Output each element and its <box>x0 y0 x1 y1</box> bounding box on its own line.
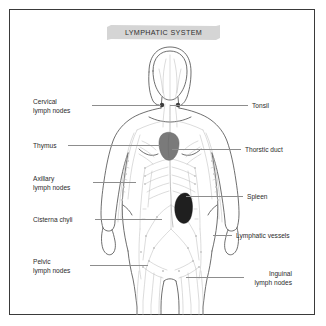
label-thoracic-duct: Thorstic duct <box>245 145 283 154</box>
lymphatic-vessel-network <box>118 55 222 315</box>
label-thymus: Thymus <box>33 141 56 150</box>
label-pelvic-lymph-nodes: Pelvic lymph nodes <box>33 257 70 275</box>
label-axillary-lymph-nodes: Axillary lymph nodes <box>33 174 70 192</box>
leader-line-axillary <box>93 182 136 183</box>
spleen-organ <box>175 193 193 223</box>
label-cisterna-chyli: Cisterna chyli <box>33 215 73 224</box>
leader-line-thoracic <box>172 149 241 150</box>
leader-line-cisterna <box>95 219 162 220</box>
thymus-organ <box>159 132 179 160</box>
label-cervical-lymph-nodes: Cervical lymph nodes <box>33 97 70 115</box>
leader-line-spleen <box>186 196 243 197</box>
leader-line-cervical <box>92 105 161 106</box>
leader-line-tonsil <box>170 105 248 106</box>
label-tonsil: Tonsil <box>252 101 269 110</box>
page-title: LYMPHATIC SYSTEM <box>107 25 220 40</box>
leader-line-thymus <box>68 145 160 146</box>
lymphatic-system-diagram: LYMPHATIC SYSTEM Cervical lymph nodes Th… <box>0 0 326 326</box>
leader-line-pelvic <box>90 265 148 266</box>
label-lymphatic-vessels: Lymphatic vessels <box>236 231 290 240</box>
label-inguinal-lymph-nodes: Inguinal lymph nodes <box>232 269 292 287</box>
title-banner: LYMPHATIC SYSTEM <box>107 25 220 40</box>
leader-line-vessels <box>213 235 232 236</box>
label-spleen: Spleen <box>247 192 268 201</box>
